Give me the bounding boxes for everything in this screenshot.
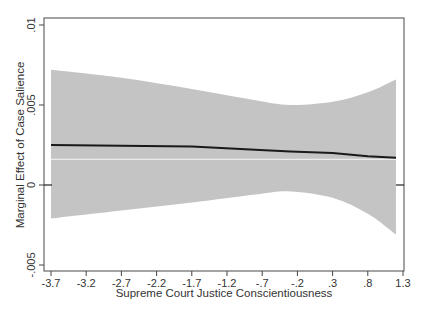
x-tick-label: -3.2 (77, 277, 96, 289)
x-tick-label: 1.3 (395, 277, 410, 289)
y-axis-label: Marginal Effect of Case Salience (14, 62, 26, 229)
x-axis-label: Supreme Court Justice Conscientiousness (116, 287, 333, 299)
y-tick-label: .005 (25, 94, 37, 115)
x-tick-label: .8 (363, 277, 372, 289)
x-tick-label: -3.7 (42, 277, 61, 289)
chart-canvas: -3.7-3.2-2.7-2.2-1.7-1.2-.7-.2.3.81.3-.0… (0, 0, 428, 315)
y-tick-label: 0 (25, 182, 37, 188)
marginal-effect-chart: -3.7-3.2-2.7-2.2-1.7-1.2-.7-.2.3.81.3-.0… (0, 0, 428, 315)
y-tick-label: .01 (25, 17, 37, 32)
y-tick-label: -.005 (25, 252, 37, 277)
confidence-band (51, 70, 396, 235)
